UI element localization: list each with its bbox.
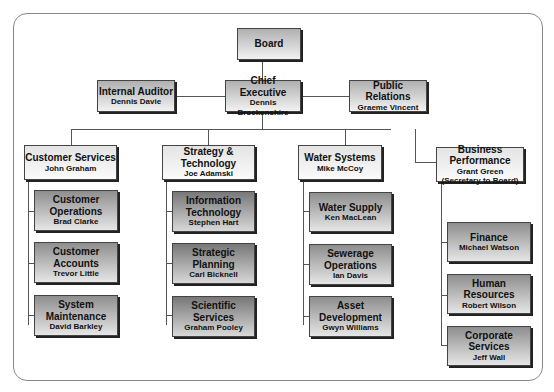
box-name: Robert Wilson (462, 301, 516, 310)
division-box: Water SystemsMike McCoy (298, 145, 382, 180)
box-title: Customer Operations (35, 194, 117, 217)
box-title: Business Performance (437, 144, 523, 167)
unit-box: FinanceMichael Watson (447, 222, 531, 262)
box-title: Asset Development (310, 300, 391, 323)
box-name: David Barkley (50, 322, 103, 331)
division-box: Business PerformanceGrant Green(Secretar… (436, 147, 524, 182)
box-title: Water Systems (304, 152, 375, 164)
box-name: Gwyn Williams (322, 323, 378, 332)
unit-box: Sewerage OperationsIan Davis (309, 244, 392, 285)
connector (208, 129, 209, 146)
internal-auditor-box: Internal AuditorDennis Davie (97, 80, 175, 112)
box-title: Water Supply (319, 202, 383, 214)
box-name: Grant Green (457, 167, 504, 176)
box-title: Corporate Services (448, 330, 530, 353)
connector (28, 180, 29, 325)
unit-box: System MaintenanceDavid Barkley (34, 295, 118, 336)
public-relations-box: Public RelationsGraeme Vincent (349, 80, 427, 112)
box-title: Board (255, 38, 284, 50)
box-name: Carl Bicknell (189, 270, 237, 279)
box-title: Customer Accounts (35, 246, 117, 269)
connector (415, 129, 416, 162)
box-title: Customer Services (25, 152, 116, 164)
unit-box: Customer AccountsTrevor Little (34, 242, 118, 283)
unit-box: Scientific ServicesGraham Pooley (172, 296, 255, 337)
connector (345, 129, 346, 146)
connector (301, 96, 349, 97)
unit-box: Corporate ServicesJeff Wall (447, 326, 531, 366)
unit-box: Strategic PlanningCarl Bicknell (172, 243, 255, 284)
board-box: Board (237, 28, 301, 60)
unit-box: Customer OperationsBrad Clarke (34, 190, 118, 231)
box-name: Ken MacLean (325, 213, 377, 222)
box-title: Information Technology (173, 195, 254, 218)
box-title: Sewerage Operations (310, 248, 391, 271)
box-title: System Maintenance (35, 299, 117, 322)
box-title: Internal Auditor (99, 86, 173, 98)
box-name: John Graham (45, 164, 97, 173)
box-name: Trevor Little (53, 269, 99, 278)
box-title: Strategic Planning (173, 247, 254, 270)
box-name: Stephen Hart (189, 218, 239, 227)
division-box: Strategy & TechnologyJoe Adamski (162, 145, 255, 180)
connector (71, 129, 391, 130)
box-title: Finance (470, 232, 508, 244)
box-name: Dennis Brockenshire (226, 98, 300, 116)
chief-executive-box: Chief ExecutiveDennis Brockenshire (225, 80, 301, 112)
connector (441, 182, 442, 345)
box-title: Chief Executive (226, 75, 300, 98)
box-name: Michael Watson (459, 243, 519, 252)
box-name: Dennis Davie (111, 97, 161, 106)
box-title: Human Resources (448, 278, 530, 301)
box-name: Graeme Vincent (358, 103, 419, 112)
box-name: Brad Clarke (54, 217, 99, 226)
connector (175, 96, 225, 97)
box-title: Public Relations (350, 80, 426, 103)
box-title: Scientific Services (173, 300, 254, 323)
connector (415, 162, 437, 163)
connector (71, 129, 72, 146)
unit-box: Asset DevelopmentGwyn Williams (309, 296, 392, 337)
box-name: Jeff Wall (473, 353, 506, 362)
box-name: Mike McCoy (317, 164, 363, 173)
box-name: Ian Davis (333, 271, 368, 280)
unit-box: Water SupplyKen MacLean (309, 192, 392, 232)
unit-box: Human ResourcesRobert Wilson (447, 274, 531, 314)
box-title: Strategy & Technology (163, 146, 254, 169)
box-note: (Secretary to Board) (442, 176, 519, 185)
connector (166, 180, 167, 325)
division-box: Customer ServicesJohn Graham (24, 145, 117, 180)
box-name: Joe Adamski (184, 169, 233, 178)
connector (303, 180, 304, 325)
unit-box: Information TechnologyStephen Hart (172, 191, 255, 232)
box-name: Graham Pooley (184, 323, 243, 332)
